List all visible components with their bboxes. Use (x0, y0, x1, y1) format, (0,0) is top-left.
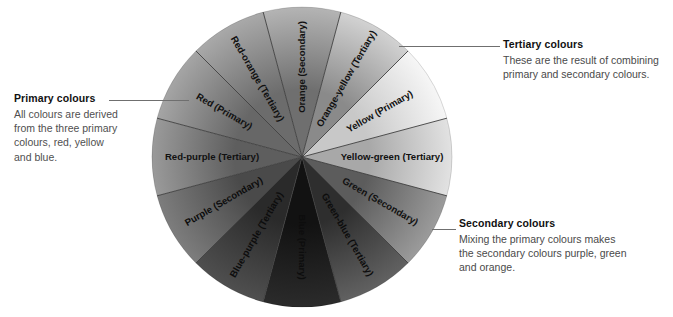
wheel-segment-label: Red-purple (Tertiary) (165, 151, 259, 162)
leader-line-secondary (432, 229, 456, 230)
wheel-segment-label: Yellow-green (Tertiary) (341, 151, 444, 162)
callout-secondary-title: Secondary colours (459, 217, 664, 230)
wheel-segment-label: Orange (Secondary) (296, 21, 307, 113)
callout-primary: Primary colours All colours are derivedf… (14, 92, 174, 164)
color-wheel-diagram: Orange (Secondary)Orange-yellow (Tertiar… (0, 0, 673, 317)
leader-line-tertiary (399, 46, 500, 47)
callout-primary-body: All colours are derivedfrom the three pr… (14, 107, 174, 164)
callout-tertiary-title: Tertiary colours (503, 38, 671, 51)
callout-tertiary-body: These are the result of combiningprimary… (503, 53, 671, 81)
callout-primary-title: Primary colours (14, 92, 174, 105)
callout-secondary: Secondary colours Mixing the primary col… (459, 217, 664, 275)
wheel-segment-label: Blue (Primary) (297, 214, 308, 280)
callout-tertiary: Tertiary colours These are the result of… (503, 38, 671, 81)
callout-secondary-body: Mixing the primary colours makesthe seco… (459, 232, 664, 275)
